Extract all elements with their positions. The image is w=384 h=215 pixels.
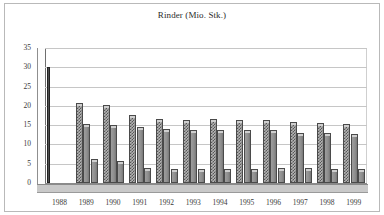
bar-top-face bbox=[305, 168, 312, 171]
bar-top-face bbox=[244, 130, 251, 133]
y-tick-25: 25 bbox=[11, 82, 31, 91]
x-tick-1993: 1993 bbox=[186, 198, 201, 207]
bar-top-face bbox=[163, 129, 170, 132]
bar-1993-series2 bbox=[190, 132, 197, 183]
bar-1997-series3 bbox=[305, 170, 312, 183]
y-tick-10: 10 bbox=[11, 139, 31, 148]
bar-top-face bbox=[351, 134, 358, 137]
bar-1994-series1 bbox=[210, 121, 217, 183]
bar-top-face bbox=[317, 123, 324, 126]
bar-1998-series3 bbox=[331, 171, 338, 183]
bar-1998-series1 bbox=[317, 125, 324, 183]
bar-1996-series3 bbox=[278, 170, 285, 183]
x-tick-1996: 1996 bbox=[266, 198, 281, 207]
bar-top-face bbox=[156, 119, 163, 122]
bar-1991-series2 bbox=[137, 129, 144, 183]
bar-group-1996 bbox=[260, 46, 287, 192]
bar-top-face bbox=[129, 115, 136, 118]
bar-1997-series1 bbox=[290, 124, 297, 183]
x-tick-1992: 1992 bbox=[159, 198, 174, 207]
bar-group-1991 bbox=[126, 46, 153, 192]
bar-top-face bbox=[83, 124, 90, 127]
bar-top-face bbox=[224, 169, 231, 172]
bar-1997-series2 bbox=[297, 135, 304, 183]
y-tick-15: 15 bbox=[11, 120, 31, 129]
bar-1994-series2 bbox=[217, 132, 224, 183]
bar-top-face bbox=[297, 133, 304, 136]
bar-1995-series1 bbox=[236, 122, 243, 183]
bar-top-face bbox=[251, 169, 258, 172]
bar-top-face bbox=[331, 169, 338, 172]
bar-group-1990 bbox=[100, 46, 127, 192]
x-tick-1991: 1991 bbox=[132, 198, 147, 207]
bar-top-face bbox=[263, 120, 270, 123]
x-tick-1998: 1998 bbox=[319, 198, 334, 207]
bar-top-face bbox=[236, 120, 243, 123]
bar-1990-series3 bbox=[117, 163, 124, 183]
bar-1993-series1 bbox=[183, 122, 190, 183]
y-tick-5: 5 bbox=[11, 159, 31, 168]
plot-area: 05101520253035 1988198919901991199219931… bbox=[37, 46, 367, 192]
bar-1992-series1 bbox=[156, 121, 163, 183]
bar-group-1997 bbox=[287, 46, 314, 192]
bar-1998-series2 bbox=[324, 135, 331, 183]
bar-group-1992 bbox=[153, 46, 180, 192]
bar-top-face bbox=[190, 130, 197, 133]
x-tick-1997: 1997 bbox=[293, 198, 308, 207]
bar-1996-series1 bbox=[263, 122, 270, 183]
bar-top-face bbox=[171, 169, 178, 172]
bar-group-1999 bbox=[340, 46, 367, 192]
bar-top-face bbox=[324, 133, 331, 136]
x-tick-1994: 1994 bbox=[212, 198, 227, 207]
bar-1990-series2 bbox=[110, 127, 117, 183]
bar-top-face bbox=[103, 105, 110, 108]
chart-title: Rinder (Mio. Stk.) bbox=[0, 10, 384, 20]
y-tick-30: 30 bbox=[11, 62, 31, 71]
x-tick-1999: 1999 bbox=[346, 198, 361, 207]
y-tick-35: 35 bbox=[11, 43, 31, 52]
bar-top-face bbox=[144, 168, 151, 171]
bar-group-1988 bbox=[46, 46, 73, 192]
y-tick-0: 0 bbox=[11, 178, 31, 187]
bar-1990-series1 bbox=[103, 107, 110, 183]
chart-figure: Rinder (Mio. Stk.) 05101520253035 198819… bbox=[0, 0, 384, 215]
bar-1995-series3 bbox=[251, 171, 258, 183]
bar-top-face bbox=[270, 130, 277, 133]
x-tick-1990: 1990 bbox=[105, 198, 120, 207]
bar-1992-series2 bbox=[163, 131, 170, 183]
x-tick-1995: 1995 bbox=[239, 198, 254, 207]
bar-1999-series2 bbox=[351, 136, 358, 183]
bar-group-1994 bbox=[207, 46, 234, 192]
bar-1991-series1 bbox=[129, 117, 136, 183]
bar-top-face bbox=[290, 122, 297, 125]
bar-1991-series3 bbox=[144, 170, 151, 184]
bar-top-face bbox=[210, 119, 217, 122]
bar-1992-series3 bbox=[171, 171, 178, 183]
x-tick-1988: 1988 bbox=[52, 198, 67, 207]
bar-group-1998 bbox=[314, 46, 341, 192]
bar-top-face bbox=[110, 125, 117, 128]
bar-1989-series1 bbox=[76, 105, 83, 183]
bar-top-face bbox=[343, 124, 350, 127]
bar-1996-series2 bbox=[270, 132, 277, 183]
bar-1994-series3 bbox=[224, 171, 231, 183]
bar-top-face bbox=[137, 127, 144, 130]
bar-top-face bbox=[76, 103, 83, 106]
x-tick-1989: 1989 bbox=[79, 198, 94, 207]
bar-group-1995 bbox=[233, 46, 260, 192]
bar-top-face bbox=[198, 169, 205, 172]
bar-group-1993 bbox=[180, 46, 207, 192]
bar-1993-series3 bbox=[198, 171, 205, 183]
bar-1989-series3 bbox=[91, 161, 98, 183]
bar-top-face bbox=[91, 159, 98, 162]
bar-top-face bbox=[117, 161, 124, 164]
y-tick-20: 20 bbox=[11, 101, 31, 110]
bar-top-face bbox=[358, 169, 365, 172]
bar-1999-series1 bbox=[343, 126, 350, 183]
bar-top-face bbox=[183, 120, 190, 123]
bar-top-face bbox=[217, 130, 224, 133]
bar-1988-series1 bbox=[47, 67, 50, 183]
bar-1995-series2 bbox=[244, 132, 251, 183]
bar-1999-series3 bbox=[358, 171, 365, 183]
bar-top-face bbox=[278, 168, 285, 171]
